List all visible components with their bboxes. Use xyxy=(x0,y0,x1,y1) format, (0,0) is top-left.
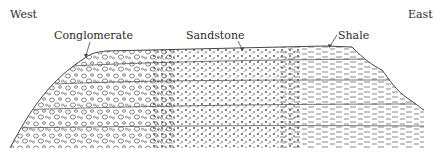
cross-section-drawing xyxy=(0,0,442,154)
